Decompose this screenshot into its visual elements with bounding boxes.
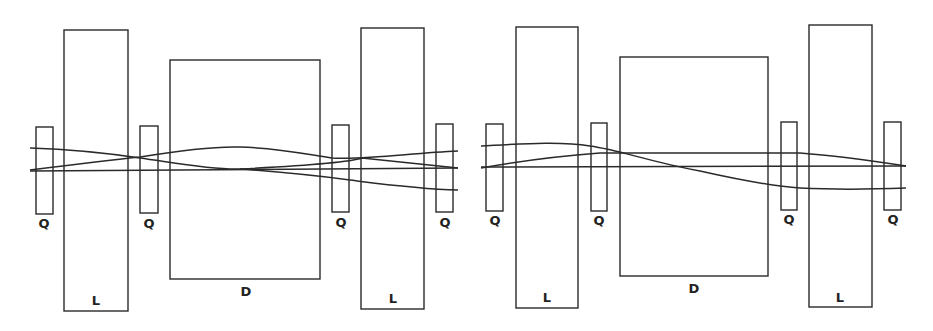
- left-quadrupole-label: Q: [335, 215, 346, 230]
- beam-trajectories: [30, 143, 906, 190]
- left-lens-label: L: [389, 291, 397, 306]
- left-lens-label: L: [92, 293, 100, 308]
- right-quadrupole-label: Q: [593, 213, 604, 228]
- right-lens-label: L: [836, 290, 844, 305]
- magnet-elements: [36, 25, 901, 311]
- element-labels: QLQDQLQQLQDQLQ: [38, 212, 898, 308]
- left-beam-trajectory: [30, 147, 458, 170]
- beamline-diagram: QLQDQLQQLQDQLQ: [0, 0, 933, 331]
- left-quadrupole-label: Q: [143, 216, 154, 231]
- right-quadrupole-label: Q: [887, 212, 898, 227]
- right-quadrupole-label: Q: [489, 213, 500, 228]
- left-quadrupole-label: Q: [38, 216, 49, 231]
- left-quadrupole-label: Q: [439, 215, 450, 230]
- right-lens-label: L: [543, 290, 551, 305]
- right-dipole-label: D: [689, 281, 700, 296]
- right-quadrupole-label: Q: [783, 212, 794, 227]
- left-dipole-label: D: [241, 284, 252, 299]
- right-beam-trajectory: [481, 166, 906, 167]
